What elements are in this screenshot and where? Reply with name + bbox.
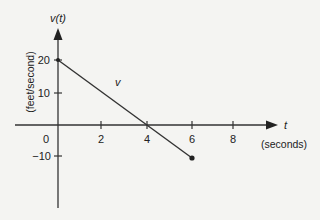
y-tick-label: −10 <box>32 150 51 162</box>
x-tick-label: 2 <box>98 133 104 145</box>
x-axis-arrow-icon <box>266 121 278 130</box>
x-axis-title: t <box>284 119 288 131</box>
velocity-line <box>58 60 192 158</box>
x-axis-unit: (seconds) <box>261 138 307 150</box>
origin-label: 0 <box>43 133 49 145</box>
x-tick-label: 4 <box>144 133 150 145</box>
y-tick-label: 20 <box>38 54 50 66</box>
start-point <box>56 58 60 62</box>
y-axis-title: v(t) <box>50 12 66 24</box>
x-tick-label: 6 <box>189 133 195 145</box>
y-axis-unit: (feet/second) <box>24 51 36 112</box>
y-axis-arrow-icon <box>54 28 63 40</box>
curve-label: v <box>115 76 122 88</box>
end-point-dot <box>189 155 194 160</box>
y-tick-label: 10 <box>38 87 50 99</box>
x-tick-label: 8 <box>230 133 236 145</box>
velocity-chart: 2 4 6 8 0 20 10 −10 v(t) (feet/second) t… <box>0 0 320 220</box>
